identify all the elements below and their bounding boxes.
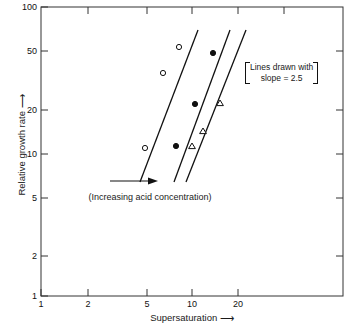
x-axis-title-text: Supersaturation bbox=[150, 312, 217, 323]
y-tick-label-50: 50 bbox=[4, 46, 37, 56]
data-point-open-circle bbox=[176, 44, 181, 49]
x-axis-ticks-top bbox=[88, 7, 284, 14]
slope-note-line-1: Lines drawn with bbox=[250, 62, 313, 73]
bracket-right-icon bbox=[313, 62, 318, 84]
slope-note-line-2: slope = 2.5 bbox=[250, 73, 313, 84]
acid-concentration-annotation: (Increasing acid concentration) bbox=[55, 192, 245, 202]
increasing-acid-arrow-icon bbox=[110, 177, 158, 184]
y-axis-title-text: Relative growth rate bbox=[16, 111, 27, 195]
data-point-filled-circle bbox=[210, 50, 215, 55]
x-tick-label-2: 2 bbox=[78, 299, 98, 309]
x-tick-label-1: 1 bbox=[31, 299, 51, 309]
data-point-filled-circle bbox=[173, 143, 178, 148]
x-axis-ticks-bottom bbox=[41, 289, 238, 296]
data-point-open-circle bbox=[142, 145, 147, 150]
x-axis-arrow-icon: ⟶ bbox=[220, 313, 234, 324]
data-point-open-circle bbox=[160, 70, 165, 75]
x-tick-label-10: 10 bbox=[182, 299, 202, 309]
bracket-left-icon bbox=[245, 62, 250, 84]
y-axis-ticks-right bbox=[336, 51, 343, 256]
x-tick-label-20: 20 bbox=[228, 299, 248, 309]
data-point-filled-circle bbox=[192, 101, 197, 106]
y-tick-label-2: 2 bbox=[4, 251, 37, 261]
slope-annotation: Lines drawn with slope = 2.5 bbox=[245, 62, 318, 84]
plot-frame bbox=[41, 7, 343, 296]
data-point-open-triangle bbox=[189, 143, 196, 149]
y-axis-arrow-icon: ⟶ bbox=[17, 94, 28, 108]
plot-canvas bbox=[0, 0, 347, 332]
x-tick-label-5: 5 bbox=[137, 299, 157, 309]
figure-log-log-growth-rate-chart: 100 50 20 10 5 2 1 1 2 5 10 20 Relative … bbox=[0, 0, 347, 332]
y-axis-title: Relative growth rate ⟶ bbox=[16, 75, 28, 215]
trend-line-1 bbox=[140, 30, 198, 182]
y-tick-label-100: 100 bbox=[4, 2, 37, 12]
data-point-open-triangle bbox=[200, 128, 207, 134]
y-axis-ticks-left bbox=[41, 7, 48, 296]
x-axis-title: Supersaturation ⟶ bbox=[41, 312, 343, 324]
series-open-circle bbox=[140, 30, 198, 182]
